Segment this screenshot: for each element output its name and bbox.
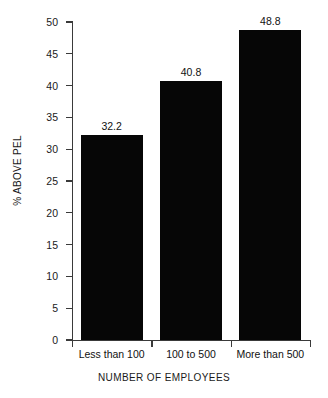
x-tick-mark [231, 340, 232, 347]
bar-value-label: 32.2 [101, 120, 121, 132]
y-axis-title-text: % ABOVE PEL [12, 135, 23, 206]
bar [160, 81, 222, 340]
x-tick-mark [72, 340, 73, 347]
y-tick-label: 35 [30, 111, 58, 123]
y-tick-mark [66, 212, 73, 213]
x-category-label: More than 500 [236, 348, 304, 360]
x-tick-mark [310, 340, 311, 347]
y-tick-mark [66, 21, 73, 22]
y-tick-label: 0 [30, 334, 58, 346]
y-tick-mark [66, 308, 73, 309]
y-tick-label: 40 [30, 80, 58, 92]
bar [81, 135, 143, 340]
x-category-label: 100 to 500 [166, 348, 216, 360]
x-tick-mark [151, 340, 152, 347]
x-axis-title: NUMBER OF EMPLOYEES [0, 372, 328, 383]
y-tick-label: 25 [30, 175, 58, 187]
x-category-label: Less than 100 [79, 348, 145, 360]
y-tick-label: 5 [30, 302, 58, 314]
y-tick-label: 20 [30, 207, 58, 219]
y-tick-mark [66, 85, 73, 86]
y-tick-mark [66, 149, 73, 150]
y-tick-mark [66, 53, 73, 54]
x-axis-line [72, 340, 311, 341]
bar-value-label: 48.8 [260, 15, 280, 27]
y-tick-label: 30 [30, 143, 58, 155]
y-tick-label: 15 [30, 239, 58, 251]
bar-chart-figure: % ABOVE PEL 05101520253035404550 32.2Les… [0, 0, 328, 398]
bar [239, 30, 301, 340]
y-axis-title: % ABOVE PEL [0, 0, 34, 340]
y-tick-mark [66, 244, 73, 245]
y-tick-mark [66, 276, 73, 277]
y-tick-label: 10 [30, 270, 58, 282]
y-tick-label: 50 [30, 16, 58, 28]
y-tick-mark [66, 180, 73, 181]
y-tick-mark [66, 117, 73, 118]
y-tick-label: 45 [30, 48, 58, 60]
bar-value-label: 40.8 [181, 66, 201, 78]
